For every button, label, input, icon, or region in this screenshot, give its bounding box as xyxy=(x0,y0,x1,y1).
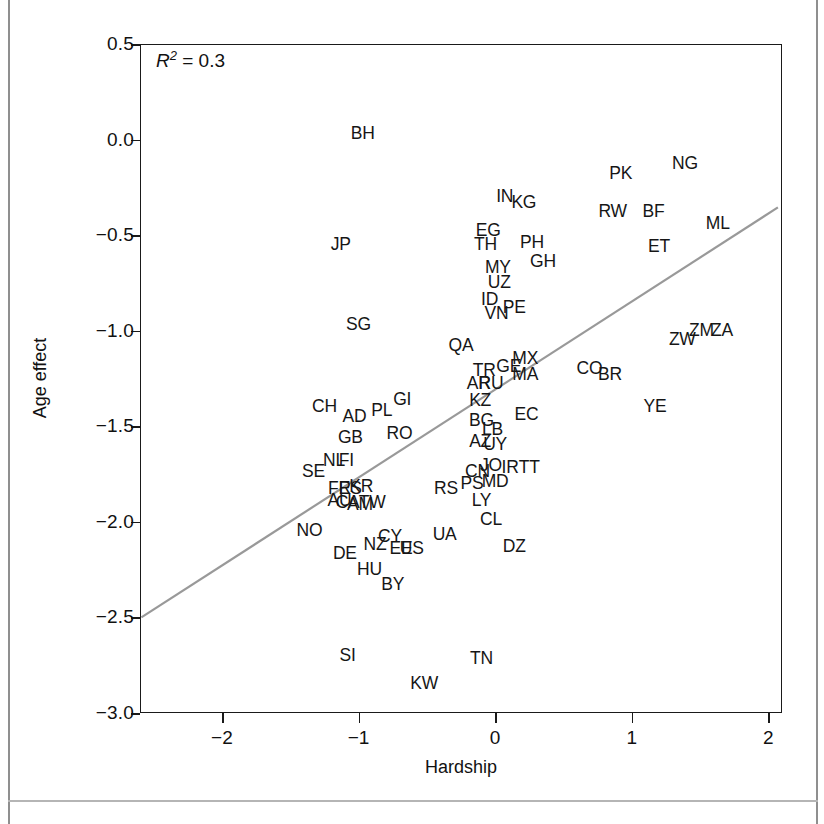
y-axis-title: Age effect xyxy=(30,338,51,419)
x-tick-label: 2 xyxy=(763,727,774,749)
y-tick-label: −1.5 xyxy=(96,415,134,437)
x-tick-mark xyxy=(632,713,634,723)
r-squared-value: = 0.3 xyxy=(182,50,225,71)
r-squared-superscript: 2 xyxy=(170,48,177,63)
x-tick-mark xyxy=(222,713,224,723)
regression-line-layer xyxy=(140,44,782,713)
y-tick-label: −2.5 xyxy=(96,606,134,628)
figure-page: 0.50.0−0.5−1.0−1.5−2.0−2.5−3.0 −2−1012 B… xyxy=(0,0,824,824)
data-point-label: KZ xyxy=(469,393,491,411)
data-point-label: TH xyxy=(474,236,497,254)
data-point-label: SG xyxy=(346,316,371,334)
data-point-label: HU xyxy=(357,561,382,579)
y-tick-label: 0.0 xyxy=(107,129,134,151)
r-symbol: R xyxy=(156,50,170,71)
data-point-label: NO xyxy=(296,523,322,541)
data-point-label: US xyxy=(400,540,424,558)
data-point-label: DE xyxy=(333,546,357,564)
data-point-label: RO xyxy=(387,425,413,443)
data-point-label: RW xyxy=(598,203,626,221)
data-point-label: BH xyxy=(351,125,375,143)
page-border-bottom xyxy=(8,800,818,802)
data-point-label: ET xyxy=(648,238,670,256)
data-point-label: TW xyxy=(359,494,386,512)
x-tick-label: −1 xyxy=(348,727,370,749)
data-point-label: BF xyxy=(643,203,665,221)
data-point-label: NZ xyxy=(363,536,386,554)
data-point-label: GB xyxy=(338,429,363,447)
y-tick-label: −2.0 xyxy=(96,511,134,533)
data-point-label: EC xyxy=(515,406,539,424)
data-point-label: ZA xyxy=(711,322,733,340)
y-tick-label: −0.5 xyxy=(96,224,134,246)
data-point-label: UA xyxy=(433,526,457,544)
x-tick-mark xyxy=(495,713,497,723)
data-point-label: MA xyxy=(512,366,538,384)
y-tick-label: −1.0 xyxy=(96,320,134,342)
data-point-label: BY xyxy=(381,576,404,594)
data-point-label: CH xyxy=(312,398,337,416)
data-point-label: NG xyxy=(672,156,698,174)
data-point-label: CL xyxy=(480,511,502,529)
data-point-label: BR xyxy=(598,366,622,384)
regression-line xyxy=(141,207,778,617)
data-point-label: KW xyxy=(410,676,438,694)
data-point-label: UY xyxy=(483,437,507,455)
data-point-label: GH xyxy=(530,253,556,271)
data-point-label: KG xyxy=(511,194,536,212)
y-tick-label: 0.5 xyxy=(107,33,134,55)
r-squared-annotation: R2 = 0.3 xyxy=(156,48,225,72)
data-point-label: SE xyxy=(302,463,325,481)
x-tick-label: 0 xyxy=(490,727,501,749)
data-point-label: PE xyxy=(503,299,526,317)
data-point-label: SI xyxy=(340,647,356,665)
data-point-label: FI xyxy=(339,452,354,470)
x-tick-mark xyxy=(359,713,361,723)
data-point-label: PH xyxy=(520,234,544,252)
scatter-plot-area: 0.50.0−0.5−1.0−1.5−2.0−2.5−3.0 −2−1012 B… xyxy=(140,44,782,713)
data-point-label: TN xyxy=(470,651,493,669)
data-point-label: PL xyxy=(371,402,392,420)
data-point-label: JP xyxy=(331,236,351,254)
data-point-label: DZ xyxy=(503,538,526,556)
x-axis-title: Hardship xyxy=(425,757,497,778)
data-point-label: QA xyxy=(449,337,474,355)
data-point-label: ML xyxy=(706,215,730,233)
data-point-label: PK xyxy=(609,165,632,183)
data-point-label: GI xyxy=(393,391,411,409)
data-point-label: LY xyxy=(472,492,492,510)
data-point-label: TT xyxy=(519,460,540,478)
data-point-label: MD xyxy=(482,473,509,491)
y-tick-label: −3.0 xyxy=(96,702,134,724)
page-border-left xyxy=(8,0,10,824)
x-tick-label: −2 xyxy=(211,727,233,749)
data-point-label: YE xyxy=(643,398,666,416)
x-tick-mark xyxy=(768,713,770,723)
data-point-label: AD xyxy=(342,408,366,426)
x-tick-label: 1 xyxy=(626,727,637,749)
page-border-right xyxy=(816,0,818,824)
data-point-label: RS xyxy=(434,481,458,499)
